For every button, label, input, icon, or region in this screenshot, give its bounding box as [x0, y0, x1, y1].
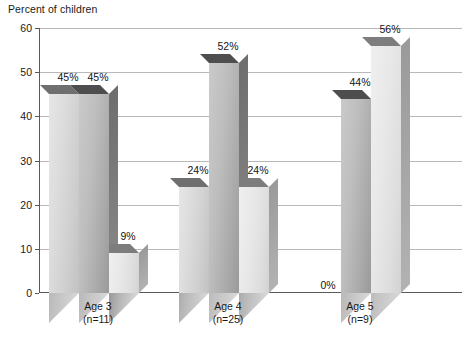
bar-side	[269, 178, 278, 293]
x-category-sample-size: (n=25)	[213, 313, 244, 326]
bar-face	[341, 99, 371, 293]
bar-value-label: 56%	[379, 23, 400, 35]
bar-face	[179, 187, 209, 293]
y-axis-title: Percent of children	[8, 3, 97, 15]
bar-value-label: 45%	[87, 71, 108, 83]
bar-face	[109, 253, 139, 293]
x-category-name: Age 5	[346, 300, 373, 313]
bar-face	[239, 187, 269, 293]
x-category-label: Age 5(n=9)	[346, 300, 373, 326]
bar[interactable]	[79, 94, 109, 293]
bar-value-label: 45%	[57, 71, 78, 83]
y-tick-mark	[35, 293, 39, 294]
bar[interactable]	[109, 253, 139, 293]
bar-value-label: 9%	[120, 230, 135, 242]
bar-value-label: 24%	[247, 164, 268, 176]
bar-top	[332, 90, 371, 99]
bar-face	[79, 94, 109, 293]
x-category-sample-size: (n=11)	[83, 313, 113, 326]
bar-face	[209, 63, 239, 293]
bar[interactable]	[179, 187, 209, 293]
x-category-name: Age 3	[83, 300, 113, 313]
y-tick-label: 50	[20, 66, 32, 78]
x-category-label: Age 3(n=11)	[83, 300, 113, 326]
bar-face	[49, 94, 79, 293]
x-category-sample-size: (n=9)	[346, 313, 373, 326]
bar[interactable]	[371, 46, 401, 293]
bar-top	[362, 37, 401, 46]
bars-layer: 45%45%9%24%52%24%0%44%56%	[39, 28, 462, 293]
bar[interactable]	[239, 187, 269, 293]
x-category-label: Age 4(n=25)	[213, 300, 244, 326]
y-tick-label: 20	[20, 199, 32, 211]
bar[interactable]	[49, 94, 79, 293]
y-tick-label: 30	[20, 155, 32, 167]
bar-chart: Percent of children 0102030405060 45%45%…	[0, 0, 470, 343]
bar-value-label: 44%	[349, 76, 370, 88]
bar[interactable]	[209, 63, 239, 293]
bar[interactable]	[341, 99, 371, 293]
bar-value-label: 52%	[217, 40, 238, 52]
bar-value-label: 24%	[187, 164, 208, 176]
plot-area: 0102030405060 45%45%9%24%52%24%0%44%56%	[39, 28, 462, 293]
x-category-name: Age 4	[213, 300, 244, 313]
y-tick-label: 10	[20, 243, 32, 255]
y-tick-label: 40	[20, 110, 32, 122]
bar-face	[371, 46, 401, 293]
y-tick-label: 60	[20, 22, 32, 34]
bar-value-label: 0%	[320, 279, 335, 291]
y-tick-label: 0	[26, 287, 32, 299]
bar-side	[401, 37, 410, 293]
